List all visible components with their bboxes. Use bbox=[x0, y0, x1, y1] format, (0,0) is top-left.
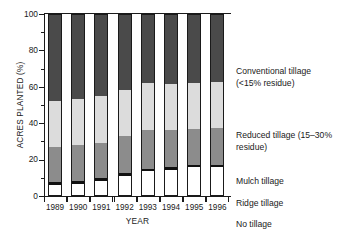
bar-segment-conventional-1989 bbox=[48, 14, 62, 101]
y-tick-100 bbox=[39, 14, 44, 15]
bar-segment-conventional-1995 bbox=[187, 14, 201, 83]
bar-segment-ridge-1991 bbox=[94, 178, 108, 181]
x-tick-left-1995 bbox=[183, 197, 184, 202]
y-tick-minor-50 bbox=[41, 105, 44, 106]
bar-segment-mulch-1991 bbox=[94, 143, 108, 178]
bar-segment-mulch-1993 bbox=[141, 130, 155, 168]
bar-segment-notill-1995 bbox=[187, 167, 201, 196]
bar-segment-ridge-1996 bbox=[210, 165, 224, 167]
x-tick-left-1991 bbox=[90, 197, 91, 202]
legend-entry-reduced: Reduced tillage (15–30% residue) bbox=[236, 130, 336, 153]
y-tick-label-40: 40 bbox=[12, 119, 38, 127]
x-tick-left-1989 bbox=[44, 197, 45, 202]
bar-segment-ridge-1992 bbox=[118, 173, 132, 176]
y-tick-minor-70 bbox=[41, 69, 44, 70]
x-tick-left-1994 bbox=[160, 197, 161, 202]
bar-segment-ridge-1990 bbox=[71, 181, 85, 184]
bar-segment-mulch-1990 bbox=[71, 145, 85, 181]
bar-1994 bbox=[164, 14, 178, 196]
bar-segment-notill-1992 bbox=[118, 176, 132, 196]
bar-segment-reduced-1991 bbox=[94, 96, 108, 143]
bar-1989 bbox=[48, 14, 62, 196]
bar-segment-conventional-1994 bbox=[164, 14, 178, 84]
bar-segment-ridge-1989 bbox=[48, 182, 62, 185]
bar-segment-notill-1993 bbox=[141, 171, 155, 196]
legend-entry-mulch: Mulch tillage bbox=[236, 176, 336, 188]
x-tick-right-1996 bbox=[228, 197, 229, 202]
bar-1992 bbox=[118, 14, 132, 196]
bar-segment-conventional-1990 bbox=[71, 14, 85, 99]
bar-segment-notill-1996 bbox=[210, 167, 224, 196]
y-axis-title: ACRES PLANTED (%) bbox=[14, 14, 28, 196]
bar-segment-conventional-1996 bbox=[210, 14, 224, 82]
bar-segment-mulch-1994 bbox=[164, 130, 178, 167]
bar-segment-notill-1994 bbox=[164, 170, 178, 196]
x-tick-left-1992 bbox=[114, 197, 115, 202]
y-tick-label-60: 60 bbox=[12, 83, 38, 91]
y-tick-label-100: 100 bbox=[12, 10, 38, 18]
legend-entry-notill: No tillage bbox=[236, 219, 336, 231]
y-tick-80 bbox=[39, 50, 44, 51]
y-tick-label-0: 0 bbox=[12, 192, 38, 200]
y-tick-40 bbox=[39, 123, 44, 124]
bar-segment-conventional-1993 bbox=[141, 14, 155, 83]
y-tick-minor-10 bbox=[41, 178, 44, 179]
chart-legend: Conventional tillage (<15% residue)Reduc… bbox=[236, 14, 336, 196]
y-tick-20 bbox=[39, 160, 44, 161]
bar-segment-notill-1991 bbox=[94, 181, 108, 196]
x-tick-left-1990 bbox=[67, 197, 68, 202]
bar-1990 bbox=[71, 14, 85, 196]
x-tick-label-1996: 1996 bbox=[202, 203, 232, 212]
bar-segment-reduced-1989 bbox=[48, 101, 62, 147]
y-tick-label-80: 80 bbox=[12, 46, 38, 54]
bar-segment-mulch-1995 bbox=[187, 129, 201, 165]
legend-entry-ridge: Ridge tillage bbox=[236, 198, 336, 210]
y-tick-label-20: 20 bbox=[12, 155, 38, 163]
bar-segment-mulch-1996 bbox=[210, 128, 224, 165]
x-axis-title: YEAR bbox=[44, 216, 231, 226]
bar-segment-ridge-1994 bbox=[164, 167, 178, 170]
bar-segment-reduced-1995 bbox=[187, 83, 201, 129]
chart-figure: ACRES PLANTED (%) 020406080100 198919901… bbox=[0, 0, 339, 236]
bar-segment-ridge-1995 bbox=[187, 165, 201, 167]
bar-segment-conventional-1992 bbox=[118, 14, 132, 90]
bar-segment-ridge-1993 bbox=[141, 169, 155, 172]
x-tick-left-1996 bbox=[206, 197, 207, 202]
bar-1991 bbox=[94, 14, 108, 196]
legend-entry-conventional: Conventional tillage (<15% residue) bbox=[236, 66, 336, 89]
bar-segment-reduced-1994 bbox=[164, 84, 178, 130]
bar-segment-reduced-1996 bbox=[210, 82, 224, 128]
bar-segment-mulch-1992 bbox=[118, 136, 132, 173]
y-tick-minor-30 bbox=[41, 141, 44, 142]
x-tick-left-1993 bbox=[137, 197, 138, 202]
y-tick-minor-90 bbox=[41, 32, 44, 33]
bar-segment-notill-1990 bbox=[71, 184, 85, 196]
bar-segment-mulch-1989 bbox=[48, 147, 62, 182]
bar-segment-notill-1989 bbox=[48, 185, 62, 196]
bar-segment-reduced-1993 bbox=[141, 83, 155, 130]
y-tick-60 bbox=[39, 87, 44, 88]
bar-1996 bbox=[210, 14, 224, 196]
bar-segment-reduced-1990 bbox=[71, 99, 85, 145]
bar-segment-reduced-1992 bbox=[118, 90, 132, 136]
bar-segment-conventional-1991 bbox=[94, 14, 108, 96]
bar-1995 bbox=[187, 14, 201, 196]
bar-1993 bbox=[141, 14, 155, 196]
